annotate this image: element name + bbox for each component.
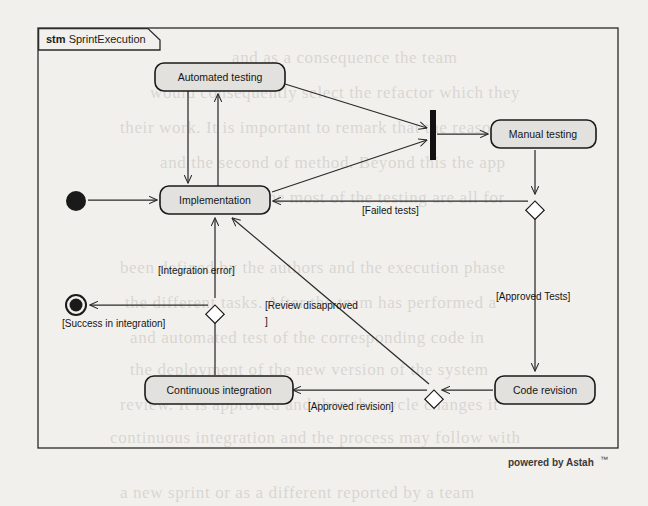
state-implementation-label: Implementation (179, 194, 251, 206)
initial-state-icon (66, 191, 86, 211)
guard-labels-layer: [Failed tests] [Approved Tests] [Integra… (62, 205, 571, 412)
final-state-dot-icon (70, 299, 83, 312)
transition-automated-to-join (285, 84, 427, 128)
states-layer: Automated testing Implementation Manual … (145, 63, 596, 404)
guard-integration-error: [Integration error] (158, 265, 235, 276)
watermark-text: powered by Astah (508, 457, 594, 468)
pseudostates-layer (66, 110, 544, 408)
transition-implementation-to-join (272, 140, 427, 192)
state-continuous-integration[interactable]: Continuous integration (145, 376, 293, 404)
state-manual-testing-label: Manual testing (509, 128, 577, 140)
frame-keyword: stm (46, 33, 66, 45)
transitions-layer (88, 84, 535, 390)
state-manual-testing[interactable]: Manual testing (491, 120, 596, 148)
state-continuous-integration-label: Continuous integration (166, 384, 271, 396)
junction-bottom-icon (425, 390, 443, 408)
state-code-revision[interactable]: Code revision (495, 376, 595, 404)
state-implementation[interactable]: Implementation (160, 186, 270, 214)
junction-right-icon (526, 201, 544, 219)
state-automated-testing-label: Automated testing (178, 71, 263, 83)
state-code-revision-label: Code revision (513, 384, 577, 396)
frame-label: stm SprintExecution (46, 33, 146, 45)
join-bar-icon (430, 110, 436, 160)
guard-approved-tests: [Approved Tests] (496, 291, 571, 302)
guard-approved-revision: [Approved revision] (308, 401, 394, 412)
junction-left-icon (206, 305, 224, 323)
state-automated-testing[interactable]: Automated testing (155, 63, 285, 91)
guard-success-in-integration: [Success in integration] (62, 318, 166, 329)
guard-review-disapproved-line2: ] (265, 316, 268, 327)
guard-review-disapproved-line1: [Review disapproved (265, 300, 358, 311)
astah-watermark: powered by Astah ™ (508, 455, 608, 468)
watermark-label: powered by Astah (508, 457, 594, 468)
guard-failed-tests: [Failed tests] (362, 205, 419, 216)
frame-name: SprintExecution (69, 33, 146, 45)
watermark-trademark-icon: ™ (600, 455, 608, 464)
